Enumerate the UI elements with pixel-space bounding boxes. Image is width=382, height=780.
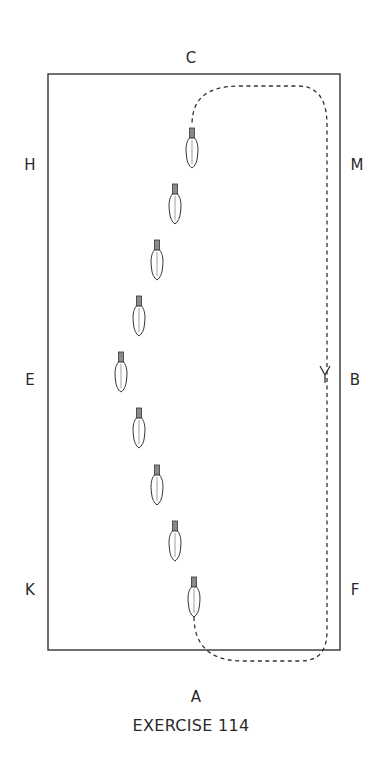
horse-icon: [169, 184, 181, 224]
horse-icon: [133, 408, 145, 448]
horse-markers: [115, 128, 200, 617]
marker-h: H: [20, 158, 40, 173]
direction-arrow-icon: [320, 366, 330, 383]
horse-icon: [115, 352, 127, 392]
horse-icon: [151, 240, 163, 280]
horse-icon: [169, 521, 181, 561]
marker-m: M: [347, 158, 367, 173]
marker-c: C: [181, 51, 201, 66]
horse-icon: [188, 577, 200, 617]
dashed-track-path: [192, 86, 327, 661]
horse-icon: [151, 465, 163, 505]
marker-b: B: [345, 373, 365, 388]
horse-icon: [133, 296, 145, 336]
arena-diagram: [0, 0, 382, 780]
marker-k: K: [20, 583, 40, 598]
exercise-title: EXERCISE 114: [0, 716, 382, 735]
marker-a: A: [186, 690, 206, 705]
horse-icon: [186, 128, 198, 168]
marker-e: E: [20, 373, 40, 388]
marker-f: F: [345, 583, 365, 598]
